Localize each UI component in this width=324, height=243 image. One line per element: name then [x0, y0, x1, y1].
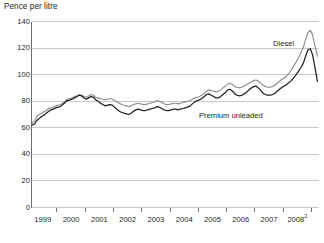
x-axis-tick-label: 2002 — [119, 216, 136, 224]
chart-container: Pence per litre 020406080100120140 19992… — [0, 0, 324, 243]
series-label-diesel: Diesel — [273, 40, 294, 48]
x-axis-tick-label: 2004 — [176, 216, 193, 224]
series-label-premium-unleaded: Premium unleaded — [199, 112, 263, 120]
x-axis-tick-label: 1999 — [34, 216, 51, 224]
x-axis-tick-label: 2001 — [91, 216, 108, 224]
x-axis-tick-label: 2005 — [204, 216, 221, 224]
x-axis-tick-label: 2003 — [147, 216, 164, 224]
x-axis-tick-label: 2000 — [63, 216, 80, 224]
x-axis-tick-label: 2006 — [232, 216, 249, 224]
x-axis-tick-label: 2007 — [261, 216, 278, 224]
x-axis-tick-label: 20082 — [287, 216, 307, 224]
x-axis-tick-labels: 1999200020012002200320042005200620072008… — [0, 0, 324, 243]
